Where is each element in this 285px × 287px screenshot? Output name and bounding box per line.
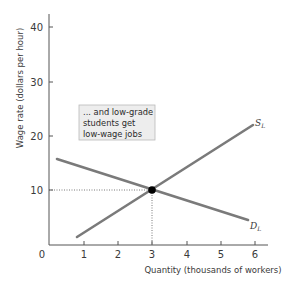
x-ticks: 0 1 2 3 4 5 6	[39, 241, 258, 260]
annotation-line-3: low-wage jobs	[83, 129, 142, 139]
demand-curve-label: DL	[249, 221, 261, 232]
x-axis-title: Quantity (thousands of workers)	[144, 265, 281, 275]
equilibrium-point	[148, 186, 156, 194]
supply-curve	[77, 125, 253, 237]
x-tick-label: 2	[115, 249, 121, 260]
y-tick-label: 20	[30, 131, 43, 142]
x-tick-label: 5	[218, 249, 224, 260]
y-axis-title: Wage rate (dollars per hour)	[15, 28, 25, 148]
x-tick-label: 6	[252, 249, 258, 260]
annotation-line-1: ... and low-grade	[83, 107, 153, 117]
labor-market-chart: Wage rate (dollars per hour) 10 20 30 40…	[0, 0, 285, 287]
y-tick-label: 10	[30, 185, 43, 196]
x-tick-label: 3	[149, 249, 155, 260]
x-tick-label: 4	[184, 249, 190, 260]
y-tick-label: 40	[30, 22, 43, 33]
x-tick-label: 1	[81, 249, 87, 260]
y-ticks: 10 20 30 40	[30, 22, 53, 196]
annotation-line-2: students get	[83, 118, 136, 128]
annotation-box: ... and low-grade students get low-wage …	[79, 105, 155, 140]
x-tick-label: 0	[39, 249, 45, 260]
y-tick-label: 30	[30, 77, 43, 88]
supply-curve-label: SL	[255, 118, 265, 129]
